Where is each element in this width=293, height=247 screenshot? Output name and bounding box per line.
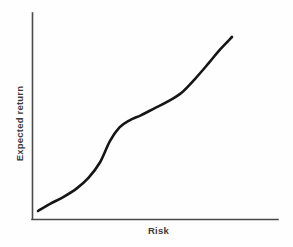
y-axis-label: Expected return	[14, 0, 32, 247]
chart-figure: Risk Expected return	[0, 0, 293, 247]
risk-return-curve	[38, 37, 232, 211]
chart-plot-area	[0, 0, 293, 247]
x-axis-label: Risk	[0, 225, 293, 236]
